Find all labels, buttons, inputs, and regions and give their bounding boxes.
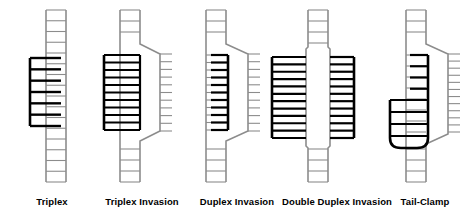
panel-triplex [30,10,66,182]
panel-label-triplex-invasion: Triplex Invasion [105,196,178,207]
panel-tail-clamp [390,10,460,182]
duplex-rail-left [306,10,308,182]
panel-double-duplex-invasion [272,10,354,182]
duplex-rail-right [328,10,330,182]
panel-duplex-invasion [206,10,260,182]
duplex-rail-right-displaced [140,10,160,182]
panel-label-triplex: Triplex [36,196,67,207]
panel-label-duplex-invasion: Duplex Invasion [200,196,274,207]
clamp-hairpin-rail [390,55,428,148]
panel-label-double-duplex-invasion: Double Duplex Invasion [282,196,392,207]
diagram-canvas [0,0,463,217]
binding-modes-diagram [0,0,463,217]
panel-label-tail-clamp: Tail-Clamp [401,196,450,207]
panel-triplex-invasion [104,10,172,182]
